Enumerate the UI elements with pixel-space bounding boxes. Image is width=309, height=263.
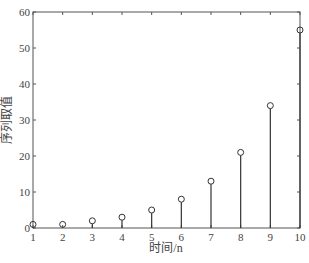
y-axis-ticks: 0102030405060 xyxy=(19,6,300,234)
y-tick-label: 10 xyxy=(19,186,31,198)
y-tick-label: 40 xyxy=(19,78,31,90)
stem-point xyxy=(89,218,95,228)
data-stems xyxy=(30,27,303,228)
stem-point xyxy=(297,27,303,228)
x-axis-label: 时间/n xyxy=(149,241,182,255)
stem-point xyxy=(60,221,66,228)
stem-point xyxy=(178,196,184,228)
stem-point xyxy=(267,103,273,228)
stem-point xyxy=(208,178,214,228)
plot-frame xyxy=(33,12,300,228)
x-axis-ticks: 12345678910 xyxy=(30,12,306,243)
y-tick-label: 60 xyxy=(19,6,31,18)
x-tick-label: 4 xyxy=(119,231,125,243)
y-tick-label: 30 xyxy=(19,114,31,126)
x-tick-label: 1 xyxy=(30,231,36,243)
stem-chart: 0102030405060 12345678910 时间/n 序列取值 xyxy=(0,0,309,263)
x-tick-label: 3 xyxy=(90,231,96,243)
y-axis-label: 序列取值 xyxy=(0,96,14,144)
stem-point xyxy=(149,207,155,228)
x-tick-label: 8 xyxy=(238,231,244,243)
x-tick-label: 10 xyxy=(295,231,307,243)
stem-point xyxy=(238,149,244,228)
y-tick-label: 20 xyxy=(19,150,31,162)
x-tick-label: 7 xyxy=(208,231,214,243)
y-tick-label: 50 xyxy=(19,42,31,54)
x-tick-label: 2 xyxy=(60,231,66,243)
stem-point xyxy=(119,214,125,228)
x-tick-label: 9 xyxy=(268,231,274,243)
